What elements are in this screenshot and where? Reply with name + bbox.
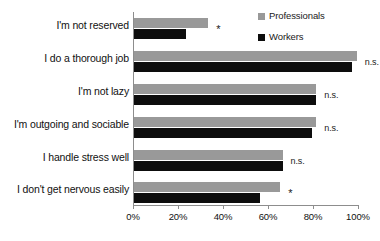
grouped-bar-chart: Professionals Workers I'm not reserved I…	[0, 0, 380, 241]
axis-tick-label: 40%	[214, 211, 233, 222]
category-label: I'm not lazy	[78, 85, 129, 97]
category-label: I handle stress well	[43, 151, 129, 163]
bar-group: *	[134, 182, 359, 208]
bar-workers	[134, 95, 316, 105]
bar-group: *	[134, 18, 359, 44]
axis-tick-label: 60%	[259, 211, 278, 222]
significance-annotation: n.s.	[324, 123, 338, 133]
bar-workers	[134, 161, 283, 171]
bar-professionals	[134, 117, 316, 127]
bar-group: n.s.	[134, 117, 359, 143]
plot-area: 0%20%40%60%80%100% *n.s.n.s.n.s.n.s.*	[133, 12, 358, 205]
category-label: I do a thorough job	[44, 52, 129, 64]
bar-workers	[134, 128, 312, 138]
bar-workers	[134, 193, 260, 203]
axis-tick-label: 100%	[346, 211, 370, 222]
significance-annotation: *	[288, 189, 292, 198]
category-label: I'm outgoing and sociable	[14, 118, 129, 130]
bar-professionals	[134, 150, 283, 160]
bar-professionals	[134, 182, 280, 192]
axis-tick-label: 80%	[304, 211, 323, 222]
bar-professionals	[134, 51, 357, 61]
category-label: I don't get nervous easily	[17, 183, 129, 195]
bar-workers	[134, 62, 352, 72]
significance-annotation: n.s.	[365, 57, 379, 67]
category-axis-labels: I'm not reserved I do a thorough job I'm…	[0, 12, 129, 205]
significance-annotation: n.s.	[324, 90, 338, 100]
significance-annotation: n.s.	[291, 156, 305, 166]
bar-group: n.s.	[134, 84, 359, 110]
bar-group: n.s.	[134, 51, 359, 77]
axis-tick-label: 20%	[169, 211, 188, 222]
bar-workers	[134, 29, 186, 39]
bar-group: n.s.	[134, 150, 359, 176]
bar-professionals	[134, 18, 208, 28]
significance-annotation: *	[216, 25, 220, 34]
bar-professionals	[134, 84, 316, 94]
axis-tick-label: 0%	[126, 211, 140, 222]
category-label: I'm not reserved	[56, 19, 129, 31]
